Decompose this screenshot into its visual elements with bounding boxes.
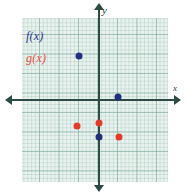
x-axis-label: x	[173, 84, 177, 93]
y-axis-arrow-down-icon	[94, 185, 104, 192]
legend-item-g: g(x)	[26, 52, 46, 64]
data-point-g-0	[95, 119, 102, 126]
x-axis-arrow-left-icon	[5, 95, 12, 105]
legend-item-f: f(x)	[26, 30, 43, 42]
x-axis-arrow-right-icon	[174, 95, 181, 105]
x-axis-line	[10, 99, 178, 101]
data-point-g-2	[116, 134, 123, 141]
data-point-f-2	[95, 134, 102, 141]
y-axis-label: y	[102, 5, 107, 16]
data-point-f-1	[115, 94, 122, 101]
data-point-g-1	[74, 122, 81, 129]
data-point-f-0	[76, 53, 83, 60]
y-axis-line	[98, 8, 100, 188]
coordinate-plane-figure: y x f(x) g(x)	[0, 0, 188, 194]
